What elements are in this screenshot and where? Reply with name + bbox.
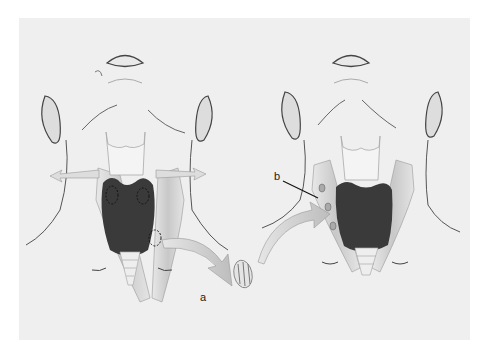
- implanted-fragment: [319, 184, 325, 192]
- left-ear: [42, 96, 61, 143]
- thyroid-gland: [336, 182, 393, 252]
- transfer-arrow-in: [258, 202, 330, 264]
- left-ear: [282, 92, 301, 139]
- thyroid-cartilage: [106, 132, 145, 175]
- right-ear: [196, 96, 213, 141]
- label-b: b: [274, 170, 280, 182]
- parathyroid-fragment: [231, 258, 254, 289]
- retraction-arrow-left: [50, 170, 99, 182]
- right-neck-figure: [258, 56, 460, 276]
- mouth: [107, 56, 143, 67]
- thyroid-cartilage: [341, 136, 380, 180]
- mouth: [333, 56, 369, 67]
- thyroid-autotransplant-diagram: [0, 0, 488, 356]
- label-a: a: [200, 291, 206, 303]
- left-neck-figure: [26, 56, 232, 303]
- right-ear: [426, 92, 443, 137]
